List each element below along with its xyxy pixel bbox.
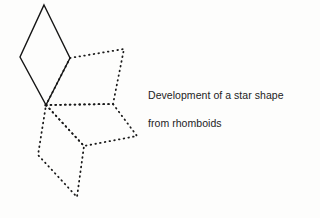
caption-line-1: Development of a star shape: [148, 88, 294, 102]
shared-apex-marker: [44, 103, 47, 106]
figure-caption: Development of a star shape from rhomboi…: [148, 74, 294, 144]
caption-line-2: from rhomboids: [148, 116, 294, 130]
shared-apex-dot: [44, 103, 47, 106]
